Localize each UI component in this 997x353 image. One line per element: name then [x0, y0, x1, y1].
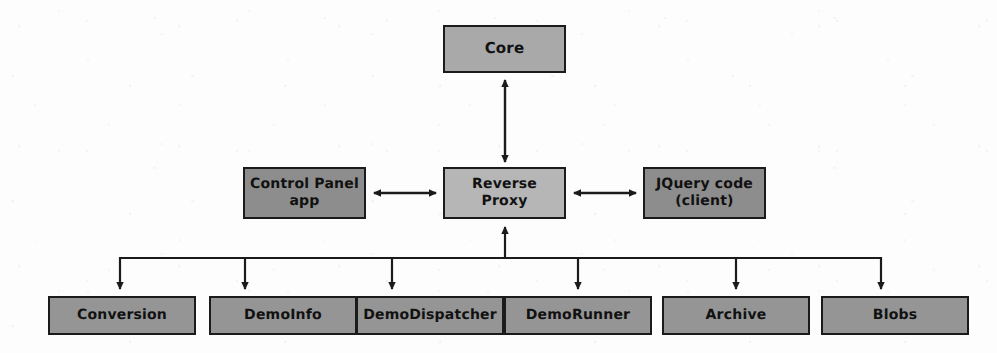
node-archive-label: Archive [702, 307, 771, 324]
node-demorunner-label: DemoRunner [522, 307, 634, 324]
node-archive[interactable]: Archive [662, 296, 810, 335]
node-blobs-label: Blobs [869, 307, 921, 324]
node-reverse-proxy-label: Reverse Proxy [468, 176, 541, 209]
node-conversion-label: Conversion [73, 307, 171, 324]
node-demoinfo-label: DemoInfo [240, 307, 326, 324]
architecture-diagram: Core Control Panel app Reverse Proxy JQu… [0, 0, 997, 353]
node-jquery-code-client-label: JQuery code (client) [652, 176, 757, 209]
node-control-panel-app[interactable]: Control Panel app [243, 167, 366, 219]
node-core-label: Core [481, 40, 529, 58]
node-conversion[interactable]: Conversion [48, 296, 196, 335]
node-control-panel-app-label: Control Panel app [246, 176, 363, 209]
node-demodispatcher-label: DemoDispatcher [359, 307, 501, 324]
node-blobs[interactable]: Blobs [821, 296, 969, 335]
node-jquery-code-client[interactable]: JQuery code (client) [643, 167, 766, 219]
node-demorunner[interactable]: DemoRunner [504, 296, 652, 335]
node-core[interactable]: Core [443, 25, 566, 73]
node-demoinfo[interactable]: DemoInfo [209, 296, 357, 335]
node-reverse-proxy[interactable]: Reverse Proxy [443, 167, 566, 219]
node-demodispatcher[interactable]: DemoDispatcher [356, 296, 504, 335]
